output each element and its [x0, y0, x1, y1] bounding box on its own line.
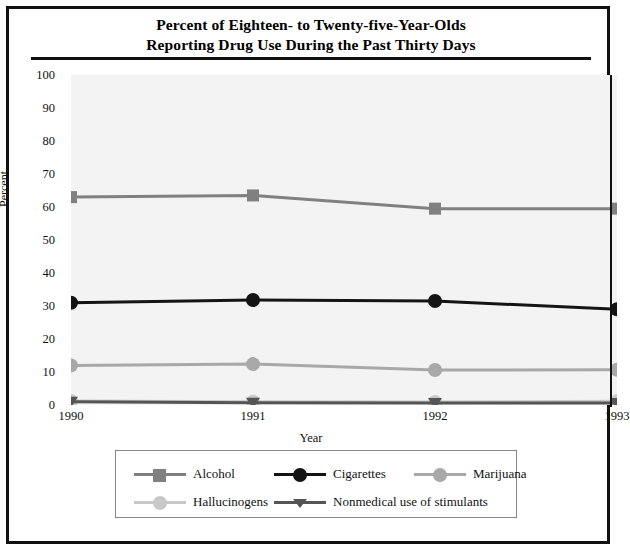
plot-area	[71, 75, 617, 405]
data-point-marker	[246, 357, 260, 371]
y-tick-label: 20	[11, 332, 55, 347]
y-tick-label: 30	[11, 299, 55, 314]
x-tick-label: 1992	[423, 409, 448, 424]
y-tick-label: 0	[11, 398, 55, 413]
y-tick-label: 100	[11, 68, 55, 83]
legend-row-1: AlcoholCigarettesMarijuana	[116, 461, 516, 487]
x-tick-label: 1993	[605, 409, 630, 424]
x-tick-label: 1990	[59, 409, 84, 424]
chart-title-line-1: Percent of Eighteen- to Twenty-five-Year…	[9, 15, 613, 35]
legend-label: Hallucinogens	[193, 494, 268, 510]
y-axis-tick-labels: 0102030405060708090100	[9, 75, 55, 405]
series-layer	[71, 75, 617, 405]
title-divider	[31, 57, 591, 60]
series-line	[71, 364, 617, 370]
y-tick-label: 60	[11, 200, 55, 215]
chart-title: Percent of Eighteen- to Twenty-five-Year…	[9, 15, 613, 55]
series-line	[71, 300, 617, 309]
legend-item[interactable]: Hallucinogens	[134, 494, 268, 510]
chart-title-line-2: Reporting Drug Use During the Past Thirt…	[9, 35, 613, 55]
series-line	[71, 402, 617, 403]
data-point-marker	[71, 296, 78, 310]
legend-label: Marijuana	[473, 466, 526, 482]
y-axis-title: Percent	[0, 171, 12, 207]
legend-item[interactable]: Nonmedical use of stimulants	[274, 494, 488, 510]
data-point-marker	[71, 191, 77, 203]
plot-container	[65, 75, 617, 405]
axis-line-right	[610, 75, 612, 407]
legend-marker-icon	[274, 466, 326, 482]
legend-item[interactable]: Cigarettes	[274, 466, 386, 482]
legend-marker-icon	[134, 466, 186, 482]
y-tick-label: 10	[11, 365, 55, 380]
y-tick-label: 50	[11, 233, 55, 248]
y-tick-label: 40	[11, 266, 55, 281]
x-axis-title: Year	[9, 431, 613, 446]
legend-label: Cigarettes	[333, 466, 386, 482]
legend: AlcoholCigarettesMarijuana Hallucinogens…	[115, 450, 517, 518]
legend-marker-icon	[274, 494, 326, 510]
data-point-marker	[71, 358, 78, 372]
legend-item[interactable]: Marijuana	[414, 466, 526, 482]
figure-frame: Percent of Eighteen- to Twenty-five-Year…	[6, 6, 610, 544]
y-tick-label: 80	[11, 134, 55, 149]
legend-item[interactable]: Alcohol	[134, 466, 235, 482]
x-axis-tick-labels: 1990199119921993	[65, 409, 617, 427]
series-line	[71, 195, 617, 208]
legend-marker-icon	[414, 466, 466, 482]
x-tick-label: 1991	[241, 409, 266, 424]
data-point-marker	[246, 293, 260, 307]
legend-label: Nonmedical use of stimulants	[333, 494, 488, 510]
legend-row-2: HallucinogensNonmedical use of stimulant…	[116, 489, 516, 515]
legend-label: Alcohol	[193, 466, 235, 482]
legend-marker-icon	[134, 494, 186, 510]
data-point-marker	[428, 363, 442, 377]
y-tick-label: 90	[11, 101, 55, 116]
data-point-marker	[428, 294, 442, 308]
data-point-marker	[429, 203, 441, 215]
data-point-marker	[247, 189, 259, 201]
y-tick-label: 70	[11, 167, 55, 182]
